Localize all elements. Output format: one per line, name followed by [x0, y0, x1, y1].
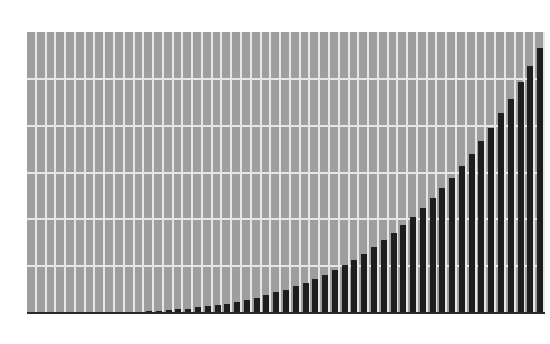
vertical-gridline [162, 32, 164, 313]
vertical-gridline [396, 32, 398, 313]
vertical-gridline [74, 32, 76, 313]
bar [303, 283, 309, 313]
vertical-gridline [377, 32, 379, 313]
vertical-gridline [35, 32, 37, 313]
bar [361, 254, 367, 313]
bar [400, 225, 406, 313]
vertical-gridline [318, 32, 320, 313]
vertical-gridline [250, 32, 252, 313]
vertical-gridline [93, 32, 95, 313]
vertical-gridline [123, 32, 125, 313]
vertical-gridline [455, 32, 457, 313]
vertical-gridline [191, 32, 193, 313]
vertical-gridline [299, 32, 301, 313]
bar [478, 141, 484, 313]
bar [283, 290, 289, 313]
vertical-gridline [338, 32, 340, 313]
vertical-gridline [533, 32, 535, 313]
bar [410, 217, 416, 313]
bar [508, 99, 514, 313]
bar [498, 113, 504, 313]
bar [312, 279, 318, 313]
bar [459, 166, 465, 313]
vertical-gridline [172, 32, 174, 313]
bar [263, 295, 269, 313]
vertical-gridline [220, 32, 222, 313]
vertical-gridline [308, 32, 310, 313]
bar [518, 82, 524, 313]
vertical-gridline [113, 32, 115, 313]
vertical-gridline [357, 32, 359, 313]
vertical-gridline [279, 32, 281, 313]
vertical-gridline [240, 32, 242, 313]
vertical-gridline [514, 32, 516, 313]
x-axis-baseline [27, 312, 545, 314]
vertical-gridline [328, 32, 330, 313]
bar [254, 298, 260, 313]
vertical-gridline [181, 32, 183, 313]
bar [342, 265, 348, 313]
bar [322, 275, 328, 313]
vertical-gridline [367, 32, 369, 313]
vertical-gridline [348, 32, 350, 313]
vertical-gridline [201, 32, 203, 313]
vertical-gridline [523, 32, 525, 313]
bar [391, 233, 397, 313]
vertical-gridline [426, 32, 428, 313]
bar [273, 292, 279, 313]
vertical-gridline [211, 32, 213, 313]
bar [371, 247, 377, 313]
vertical-gridline [230, 32, 232, 313]
bar [381, 240, 387, 313]
bar [332, 270, 338, 313]
vertical-gridline [54, 32, 56, 313]
vertical-gridline [435, 32, 437, 313]
bar [469, 154, 475, 313]
plot-area [27, 32, 545, 313]
vertical-gridline [543, 32, 545, 313]
vertical-gridline [260, 32, 262, 313]
vertical-gridline [465, 32, 467, 313]
bar [527, 66, 533, 313]
bar [293, 286, 299, 313]
vertical-gridline [103, 32, 105, 313]
vertical-gridline [64, 32, 66, 313]
bar [351, 260, 357, 313]
vertical-gridline [494, 32, 496, 313]
vertical-gridline [152, 32, 154, 313]
bar [439, 188, 445, 313]
bar [537, 48, 543, 313]
bar [488, 128, 494, 313]
vertical-gridline [475, 32, 477, 313]
vertical-gridline [445, 32, 447, 313]
vertical-gridline [387, 32, 389, 313]
bar [430, 198, 436, 313]
bar [449, 178, 455, 313]
vertical-gridline [84, 32, 86, 313]
vertical-gridline [45, 32, 47, 313]
vertical-gridline [133, 32, 135, 313]
vertical-gridline [504, 32, 506, 313]
bar [420, 208, 426, 313]
vertical-gridline [142, 32, 144, 313]
vertical-gridline [416, 32, 418, 313]
vertical-gridline [406, 32, 408, 313]
vertical-gridline [289, 32, 291, 313]
vertical-gridline [269, 32, 271, 313]
vertical-gridline [484, 32, 486, 313]
